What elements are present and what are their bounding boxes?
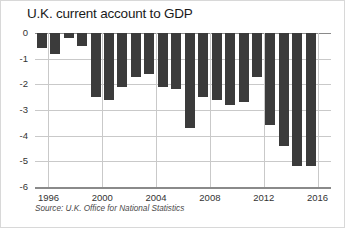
source-note: Source: U.K. Office for National Statist… [35, 204, 184, 213]
bar [131, 33, 141, 77]
bar [144, 33, 154, 74]
x-tick [210, 33, 211, 187]
chart-figure: U.K. current account to GDP 0-1-2-3-4-5-… [0, 0, 345, 228]
bar [225, 33, 235, 105]
bar [104, 33, 114, 100]
bar [185, 33, 195, 128]
x-tick-label: 2004 [136, 192, 176, 203]
plot-area [35, 33, 331, 187]
bar [292, 33, 302, 166]
x-tick-label: 2008 [190, 192, 230, 203]
bar [239, 33, 249, 102]
bar [306, 33, 316, 166]
y-tick-label: -1 [9, 54, 28, 63]
bar [212, 33, 222, 100]
y-tick-label: 0 [9, 28, 28, 37]
bar [117, 33, 127, 87]
x-tick-label: 1996 [28, 192, 68, 203]
x-tick [318, 33, 319, 187]
bar [77, 33, 87, 46]
bar [252, 33, 262, 77]
x-tick-label: 2012 [244, 192, 284, 203]
x-tick [102, 33, 103, 187]
bar [279, 33, 289, 146]
y-tick-label: -2 [9, 79, 28, 88]
bar [50, 33, 60, 54]
bar [37, 33, 47, 48]
x-tick [264, 33, 265, 187]
bar [91, 33, 101, 97]
bar [198, 33, 208, 97]
x-tick [48, 33, 49, 187]
y-tick-label: -5 [9, 156, 28, 165]
y-tick-label: -6 [9, 182, 28, 191]
y-tick-label: -3 [9, 105, 28, 114]
gridline-neg5 [35, 161, 331, 162]
bar [265, 33, 275, 125]
x-tick-label: 2000 [82, 192, 122, 203]
bar [171, 33, 181, 89]
x-tick [156, 33, 157, 187]
bar [158, 33, 168, 87]
y-tick-label: -4 [9, 131, 28, 140]
bar [64, 33, 74, 38]
x-tick-label: 2016 [298, 192, 338, 203]
gridline-neg6 [35, 187, 331, 189]
